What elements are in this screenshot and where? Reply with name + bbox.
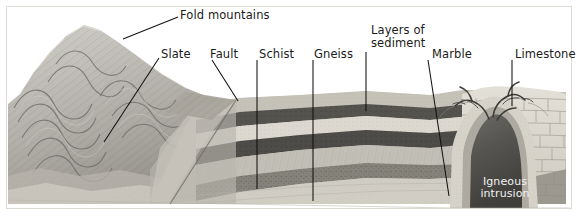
label-fault: Fault [210,48,238,61]
label-gneiss: Gneiss [314,48,353,61]
label-marble: Marble [432,48,472,61]
label-layers-of-sediment: Layers of sediment [371,24,425,49]
label-slate: Slate [161,48,191,61]
label-limestone: Limestone [515,48,576,61]
label-schist: Schist [259,48,294,61]
label-fold-mountains: Fold mountains [180,9,270,22]
geology-cross-section-figure: Fold mountains Slate Fault Schist Gneiss… [0,0,578,224]
label-igneous-intrusion: Igneous intrusion [464,176,546,200]
